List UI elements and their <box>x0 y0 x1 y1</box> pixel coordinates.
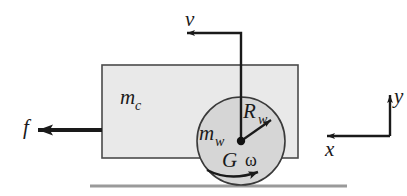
contact-point-label: G <box>222 148 237 172</box>
friction-force-label: f <box>23 115 32 139</box>
velocity-label: v <box>185 7 195 31</box>
wheel-mass-label: m <box>199 121 214 145</box>
physics-diagram-canvas: m c m w R w f v G ω x y <box>0 0 407 196</box>
chassis-mass-label: m <box>120 85 135 109</box>
chassis-mass-subscript: c <box>135 98 142 113</box>
x-axis-label: x <box>324 137 335 161</box>
angular-velocity-label: ω <box>245 150 257 170</box>
diagram-svg: m c m w R w f v G ω x y <box>0 0 407 196</box>
wheel-center-point <box>237 137 245 145</box>
wheel-radius-label: R <box>242 99 256 123</box>
y-axis-label: y <box>392 84 404 108</box>
wheel-mass-subscript: w <box>215 134 225 149</box>
wheel-radius-subscript: w <box>258 112 268 127</box>
